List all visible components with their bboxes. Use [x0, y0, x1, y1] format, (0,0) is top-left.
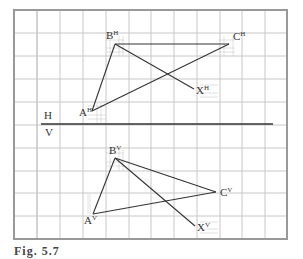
point-label-c-h: CH	[233, 30, 245, 42]
fine-grid-marks	[88, 36, 235, 233]
folding-line-label-v: V	[45, 126, 53, 138]
point-label-a-v: AV	[84, 214, 97, 226]
segment-bc-v	[115, 158, 216, 192]
point-label-a-h: AH	[79, 106, 92, 118]
segment-ac-v	[93, 192, 216, 214]
point-label-b-v: BV	[109, 144, 121, 156]
point-label-x-v: XV	[197, 221, 210, 233]
point-label-c-v: CV	[220, 186, 232, 198]
figure-caption: Fig. 5.7	[14, 244, 60, 259]
folding-line-label-h: H	[44, 109, 52, 121]
point-label-x-h: XH	[196, 84, 209, 96]
segment-ab-v	[93, 158, 115, 214]
point-label-b-h: BH	[106, 29, 118, 41]
segment-ac-h	[92, 44, 229, 111]
